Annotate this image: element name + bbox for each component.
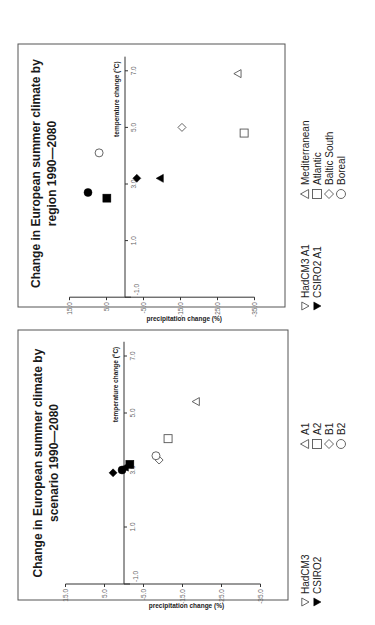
legend-circle-icon [337, 190, 346, 199]
x-tick-label: 1.0 [130, 236, 137, 245]
chart-panel-region: Change in European summer climate byregi… [18, 27, 363, 312]
x-origin-tick-label: -1.0 [133, 284, 140, 296]
legend-square-icon [313, 190, 322, 199]
y-tick-label: 15.0 [66, 302, 73, 315]
data-point-filled-b2 [118, 466, 126, 474]
x-tick-label: 1.0 [129, 522, 136, 531]
legend-group-label: Boreal [336, 156, 347, 185]
data-point-open-atlantic [240, 129, 248, 137]
data-point-open-a1 [192, 398, 199, 406]
chart-title-line: scenario 1990—2080 [47, 404, 61, 522]
data-point-open-b2 [152, 452, 160, 460]
chart-title-line: Change in European summer climate by [29, 59, 43, 288]
legend-model-label: CSIRO2 A1 [312, 246, 323, 298]
x-tick-label: 7.0 [130, 66, 137, 75]
data-point-filled-boreal [84, 188, 92, 196]
legend-model-label: HadCM3 A1 [300, 244, 311, 298]
data-point-filled-mediterranean [156, 174, 163, 182]
legend-group-label: A1 [300, 422, 311, 435]
x-tick-label: 5.0 [129, 408, 136, 417]
y-tick-label: -35.0 [257, 589, 264, 604]
y-tick-label: 15.0 [62, 589, 69, 602]
y-tick-label: 5.0 [103, 302, 110, 311]
chart-panel-scenario: Change in European summer climate byscen… [18, 322, 363, 612]
chart-region-svg: Change in European summer climate byregi… [18, 27, 363, 312]
y-tick-label: -35.0 [251, 302, 258, 317]
legend-group-label: Mediterranean [300, 121, 311, 185]
legend-triangle-icon [301, 440, 309, 449]
y-tick-label: -5.0 [140, 589, 147, 601]
legend-group-label: Baltic South [324, 132, 335, 185]
data-point-open-mediterranean [234, 70, 241, 78]
chart-scenario-svg: Change in European summer climate byscen… [18, 322, 363, 612]
y-axis-label: precipitation change (%) [149, 602, 224, 610]
legend-model-label: CSIRO2 [312, 556, 323, 594]
legend-filled-triangle-icon [314, 598, 321, 606]
legend-group-label: B2 [336, 422, 347, 435]
x-axis-label: temperature change (°C) [113, 61, 121, 137]
legend-diamond-icon [325, 440, 334, 449]
x-tick-label: 5.0 [130, 123, 137, 132]
legend-diamond-icon [325, 190, 334, 199]
x-tick-label: 7.0 [129, 351, 136, 360]
chart-title-line: region 1990—2080 [45, 120, 59, 226]
chart-title-line: Change in European summer climate by [31, 348, 45, 577]
data-point-open-baltic-south [178, 123, 186, 131]
x-origin-tick-label: -1.0 [132, 570, 139, 582]
legend-square-icon [313, 440, 322, 449]
data-point-open-boreal [95, 149, 103, 157]
legend-group-label: Atlantic [312, 152, 323, 185]
legend-group-label: A2 [312, 422, 323, 435]
data-point-filled-a2 [126, 460, 134, 468]
data-point-filled-atlantic [103, 194, 111, 202]
x-axis-label: temperature change (°C) [112, 347, 120, 423]
data-point-filled-b1 [109, 469, 117, 477]
y-tick-label: -5.0 [140, 302, 147, 314]
legend-group-label: B1 [324, 422, 335, 435]
data-point-open-a2 [164, 435, 172, 443]
legend-open-triangle-icon [302, 302, 309, 310]
legend-open-triangle-icon [302, 598, 309, 606]
legend-filled-triangle-icon [314, 302, 321, 310]
legend-triangle-icon [301, 190, 309, 199]
legend-model-label: HadCM3 [300, 554, 311, 594]
y-tick-label: 5.0 [101, 589, 108, 598]
legend-circle-icon [337, 440, 346, 449]
